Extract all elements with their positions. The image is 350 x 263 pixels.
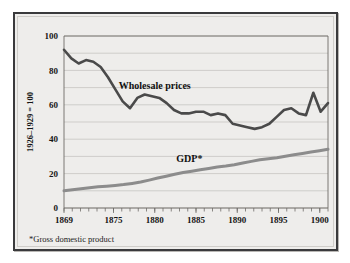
y-tick-label: 60 xyxy=(49,100,59,110)
gridlines xyxy=(64,36,328,208)
x-tick-label: 1885 xyxy=(187,215,206,225)
x-tick-label: 1895 xyxy=(270,215,289,225)
y-tick-label: 80 xyxy=(49,66,59,76)
y-tick-label: 20 xyxy=(49,169,59,179)
y-tick-label: 100 xyxy=(45,31,59,41)
chart-frame: 020406080100 186918751880188518901895190… xyxy=(13,12,338,251)
wholesale-prices-label: Wholesale prices xyxy=(119,80,191,91)
y-tick-label: 40 xyxy=(49,134,59,144)
data-series xyxy=(64,50,328,191)
y-tick-label: 0 xyxy=(54,203,59,213)
x-tick-label: 1900 xyxy=(311,215,330,225)
chart-plate: 020406080100 186918751880188518901895190… xyxy=(17,16,334,247)
figure-root: 020406080100 186918751880188518901895190… xyxy=(0,0,350,263)
gdp-label: GDP* xyxy=(176,153,202,164)
y-axis-title: 1926–1929 = 100 xyxy=(25,92,35,152)
x-axis-tick-labels: 1869187518801885189018951900 xyxy=(55,215,329,225)
x-axis-tickmarks xyxy=(64,208,328,213)
series-line xyxy=(64,50,328,129)
x-tick-label: 1890 xyxy=(228,215,247,225)
y-axis-tick-labels: 020406080100 xyxy=(45,31,59,213)
x-tick-label: 1869 xyxy=(55,215,74,225)
chart-canvas: 020406080100 186918751880188518901895190… xyxy=(18,17,339,252)
x-tick-label: 1875 xyxy=(105,215,124,225)
x-tick-label: 1880 xyxy=(146,215,165,225)
footnote: *Gross domestic product xyxy=(29,234,115,244)
